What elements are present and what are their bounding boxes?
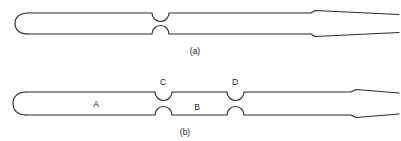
capillary-tube-diagram: (a) A B C D (b)	[0, 0, 401, 141]
region-label-b: B	[194, 102, 200, 112]
panel-b-tube-bottom-wall	[26, 107, 399, 118]
constriction-label-c: C	[160, 77, 166, 87]
panel-a-tube-bottom-wall	[28, 26, 399, 37]
panel-b-rounded-end-cap	[13, 92, 26, 115]
region-label-a: A	[93, 99, 99, 109]
constriction-label-d: D	[232, 77, 238, 87]
panel-a-tube-top-wall	[28, 11, 399, 22]
figure-root: (a) A B C D (b)	[0, 0, 401, 141]
panel-a: (a)	[15, 11, 399, 57]
panel-b-caption: (b)	[180, 127, 191, 137]
panel-a-caption: (a)	[190, 46, 201, 56]
panel-b: A B C D (b)	[13, 77, 399, 137]
panel-b-tube-top-wall	[26, 90, 399, 101]
panel-a-rounded-end-cap	[15, 13, 28, 34]
